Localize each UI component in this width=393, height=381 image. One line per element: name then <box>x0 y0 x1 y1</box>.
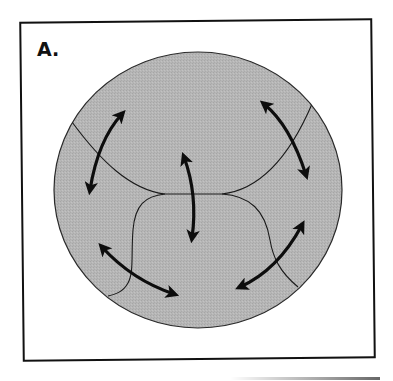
circle-region <box>54 52 342 328</box>
cell-boundary-diagram <box>0 0 393 381</box>
bottom-edge-strip <box>230 377 380 380</box>
